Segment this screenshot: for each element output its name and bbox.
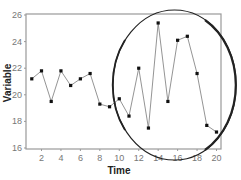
data-series bbox=[30, 21, 218, 133]
data-point-marker bbox=[89, 72, 92, 75]
y-tick-label: 20 bbox=[12, 90, 22, 100]
data-point-marker bbox=[98, 103, 101, 106]
data-point-marker bbox=[195, 72, 198, 75]
x-tick-label: 2 bbox=[39, 153, 44, 163]
line-chart: 161820222426 2468101214161820 Time Varia… bbox=[0, 0, 241, 180]
data-point-marker bbox=[108, 105, 111, 108]
data-point-marker bbox=[147, 126, 150, 129]
data-point-marker bbox=[30, 77, 33, 80]
data-point-marker bbox=[137, 67, 140, 70]
data-point-marker bbox=[59, 69, 62, 72]
data-point-marker bbox=[79, 77, 82, 80]
data-point-marker bbox=[186, 35, 189, 38]
x-tick-label: 12 bbox=[134, 153, 144, 163]
data-point-marker bbox=[40, 69, 43, 72]
y-tick-label: 24 bbox=[12, 37, 22, 47]
data-point-marker bbox=[50, 100, 53, 103]
data-point-marker bbox=[166, 100, 169, 103]
y-tick-label: 18 bbox=[12, 116, 22, 126]
data-point-marker bbox=[205, 124, 208, 127]
y-axis-title: Variable bbox=[2, 63, 13, 102]
x-tick-label: 10 bbox=[114, 153, 124, 163]
x-tick-label: 8 bbox=[97, 153, 102, 163]
ellipse-left-arc bbox=[113, 40, 125, 130]
y-axis-ticks: 161820222426 bbox=[12, 10, 26, 153]
data-point-marker bbox=[118, 97, 121, 100]
data-point-marker bbox=[157, 21, 160, 24]
data-point-marker bbox=[127, 114, 130, 117]
x-tick-label: 4 bbox=[58, 153, 63, 163]
y-tick-label: 26 bbox=[12, 10, 22, 20]
series-line bbox=[32, 23, 217, 132]
x-tick-label: 16 bbox=[173, 153, 183, 163]
x-axis-title: Time bbox=[107, 165, 131, 176]
data-point-marker bbox=[69, 84, 72, 87]
data-point-marker bbox=[215, 130, 218, 133]
y-tick-label: 22 bbox=[12, 63, 22, 73]
data-point-marker bbox=[176, 39, 179, 42]
highlight-ellipse bbox=[113, 10, 236, 160]
x-tick-label: 6 bbox=[78, 153, 83, 163]
y-tick-label: 16 bbox=[12, 143, 22, 153]
x-tick-label: 20 bbox=[211, 153, 221, 163]
